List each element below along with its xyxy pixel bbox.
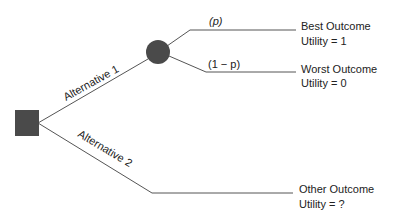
best-outcome-utility: Utility = 1 (301, 35, 347, 47)
alt1-label: Alternative 1 (61, 63, 120, 103)
other-outcome-name: Other Outcome (299, 183, 374, 195)
chance-node (146, 40, 170, 64)
best-outcome-edge (167, 30, 296, 46)
best-outcome-name: Best Outcome (301, 20, 371, 32)
other-outcome-utility: Utility = ? (299, 198, 345, 210)
worst-outcome-utility: Utility = 0 (301, 77, 347, 89)
alt2-label: Alternative 2 (76, 127, 135, 169)
alt2-edge (38, 123, 293, 193)
alt1-edge (38, 59, 148, 123)
decision-tree-diagram: Alternative 1 Alternative 2 (p) (1 − p) … (0, 0, 396, 219)
probability-p: (p) (209, 15, 223, 27)
worst-outcome-name: Worst Outcome (301, 63, 377, 75)
probability-one-minus-p: (1 − p) (208, 58, 240, 70)
decision-node (15, 110, 39, 136)
